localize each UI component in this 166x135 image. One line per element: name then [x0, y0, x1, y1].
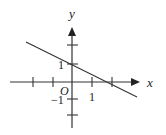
x-axis-arrow-icon [131, 78, 140, 86]
y-axis [67, 27, 78, 128]
graph-line [26, 42, 137, 97]
y-axis-arrow-icon [68, 27, 76, 36]
y-tick-label-neg1: −1 [51, 93, 64, 107]
y-tick-label-1: 1 [58, 58, 64, 72]
x-axis [10, 77, 140, 87]
coordinate-diagram: y x O 1 1 −1 [0, 0, 166, 135]
y-axis-label: y [67, 6, 75, 21]
x-axis-label: x [146, 75, 153, 90]
x-tick-label-1: 1 [89, 90, 95, 104]
